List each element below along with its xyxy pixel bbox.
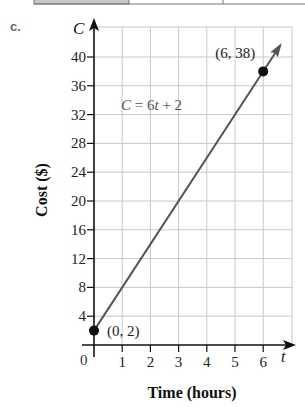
part-label: c. [10, 19, 21, 34]
data-point-label: (0, 2) [107, 323, 140, 340]
x-axis-title: Time (hours) [147, 384, 236, 402]
y-tick-label: 36 [71, 78, 87, 94]
table-shaded-cell [34, 0, 129, 4]
data-point [258, 66, 268, 76]
x-axis-variable: t [281, 348, 286, 365]
x-tick-label: 3 [175, 354, 183, 370]
x-tick-label: 1 [118, 354, 126, 370]
chart-figure: c. 123456481216202428323640 (0, 2)(6, 38… [0, 0, 305, 407]
y-tick-label: 28 [71, 135, 86, 151]
y-tick-label: 20 [71, 193, 86, 209]
origin-label: 0 [80, 352, 88, 368]
y-tick-label: 4 [79, 308, 87, 324]
y-axis-title: Cost ($) [33, 163, 51, 217]
top-table-fragment [34, 0, 305, 4]
equation-label: C = 6t + 2 [121, 97, 182, 113]
x-tick-label: 5 [231, 354, 239, 370]
y-tick-label: 40 [71, 49, 86, 65]
x-tick-label: 6 [259, 354, 267, 370]
data-point-label: (6, 38) [215, 45, 255, 62]
y-tick-label: 32 [71, 107, 86, 123]
x-tick-label: 4 [203, 354, 211, 370]
data-point [89, 326, 99, 336]
y-tick-label: 24 [71, 164, 87, 180]
series-arrow-icon [270, 43, 281, 57]
y-axis-variable: C [73, 19, 85, 38]
y-tick-label: 12 [71, 251, 86, 267]
x-tick-label: 2 [147, 354, 155, 370]
y-tick-label: 8 [79, 279, 87, 295]
y-tick-label: 16 [71, 222, 87, 238]
